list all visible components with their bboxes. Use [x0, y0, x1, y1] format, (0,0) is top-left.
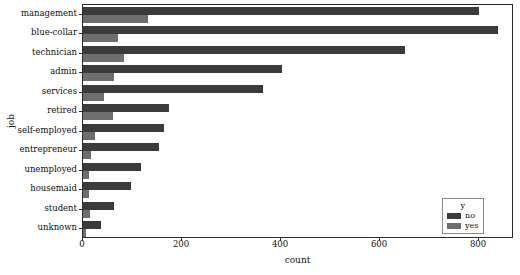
y-tick-mark [79, 111, 82, 112]
y-tick-student: student [0, 203, 77, 213]
y-tick-blue-collar: blue-collar [0, 27, 77, 37]
bar-group [83, 65, 512, 81]
x-tick-mark [379, 238, 380, 241]
x-tick-mark [280, 238, 281, 241]
legend-item-yes[interactable]: yes [447, 221, 478, 230]
bar-technician-yes [83, 54, 124, 62]
y-tick-mark [79, 170, 82, 171]
legend-swatch-yes [447, 223, 461, 229]
bar-services-no [83, 85, 263, 93]
bar-blue-collar-no [83, 26, 498, 34]
y-tick-mark [79, 14, 82, 15]
bar-group [83, 182, 512, 198]
bar-admin-no [83, 65, 282, 73]
bar-unknown-no [83, 221, 101, 229]
y-tick-mark [79, 53, 82, 54]
bar-student-no [83, 202, 114, 210]
x-tick-mark [82, 238, 83, 241]
bar-management-no [83, 7, 479, 15]
y-tick-management: management [0, 8, 77, 18]
legend-title: y [447, 201, 478, 210]
y-tick-mark [79, 228, 82, 229]
x-tick-mark [181, 238, 182, 241]
x-tick-mark [478, 238, 479, 241]
bar-group [83, 46, 512, 62]
bar-self-employed-no [83, 124, 164, 132]
bar-technician-no [83, 46, 405, 54]
y-tick-mark [79, 150, 82, 151]
y-tick-retired: retired [0, 105, 77, 115]
bar-group [83, 124, 512, 140]
bar-group [83, 26, 512, 42]
y-tick-services: services [0, 86, 77, 96]
bar-retired-no [83, 104, 169, 112]
bar-group [83, 104, 512, 120]
bar-group [83, 7, 512, 23]
legend: y noyes [442, 198, 484, 234]
y-tick-unemployed: unemployed [0, 164, 77, 174]
y-tick-housemaid: housemaid [0, 183, 77, 193]
bar-blue-collar-yes [83, 34, 118, 42]
y-tick-technician: technician [0, 47, 77, 57]
bar-housemaid-no [83, 182, 131, 190]
legend-entries: noyes [447, 211, 478, 230]
bar-group [83, 85, 512, 101]
legend-label-yes: yes [465, 221, 478, 230]
bar-entrepreneur-no [83, 143, 159, 151]
bar-self-employed-yes [83, 132, 95, 140]
y-tick-entrepreneur: entrepreneur [0, 144, 77, 154]
y-tick-self-employed: self-employed [0, 125, 77, 135]
y-tick-mark [79, 189, 82, 190]
legend-label-no: no [465, 211, 475, 220]
y-tick-mark [79, 209, 82, 210]
y-tick-mark [79, 72, 82, 73]
bar-group [83, 163, 512, 179]
x-axis-label: count [82, 255, 513, 265]
bar-entrepreneur-yes [83, 151, 91, 159]
y-tick-mark [79, 92, 82, 93]
bar-retired-yes [83, 112, 113, 120]
bar-services-yes [83, 93, 104, 101]
y-tick-unknown: unknown [0, 222, 77, 232]
y-tick-admin: admin [0, 66, 77, 76]
y-tick-mark [79, 131, 82, 132]
legend-swatch-no [447, 213, 461, 219]
bar-group [83, 143, 512, 159]
bar-unemployed-yes [83, 171, 89, 179]
bar-management-yes [83, 15, 148, 23]
y-tick-mark [79, 33, 82, 34]
bar-unemployed-no [83, 163, 141, 171]
bar-unknown-yes [83, 229, 86, 237]
bar-student-yes [83, 210, 90, 218]
bar-admin-yes [83, 73, 114, 81]
legend-item-no[interactable]: no [447, 211, 478, 220]
bar-chart-figure: job managementblue-collartechnicianadmin… [0, 0, 520, 275]
bar-housemaid-yes [83, 190, 89, 198]
